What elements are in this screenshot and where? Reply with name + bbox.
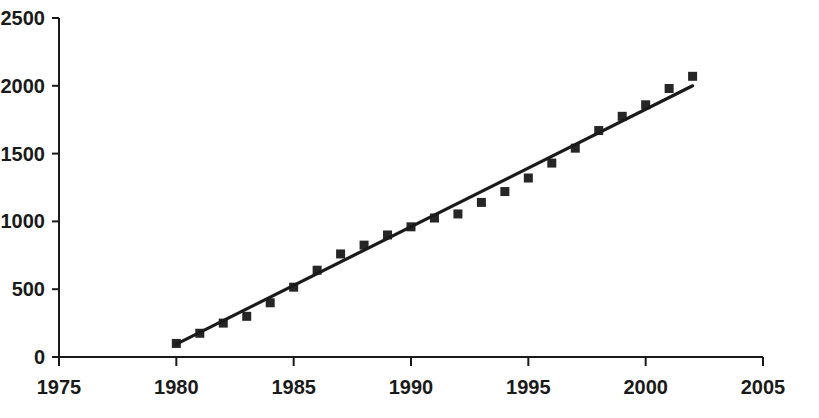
y-tick-label: 0 — [0, 347, 45, 367]
x-tick-label: 1985 — [271, 377, 316, 397]
x-tick-label: 2005 — [741, 377, 786, 397]
data-point-marker — [336, 249, 345, 258]
data-point-marker — [477, 198, 486, 207]
x-tick-label: 2000 — [623, 377, 668, 397]
x-tick-label: 1975 — [37, 377, 82, 397]
data-point-marker — [547, 159, 556, 168]
chart-container: 0500100015002000250019751980198519901995… — [0, 0, 819, 418]
y-tick-label: 2000 — [0, 76, 45, 96]
x-tick-label: 1995 — [506, 377, 551, 397]
data-point-marker — [453, 209, 462, 218]
data-point-marker — [665, 84, 674, 93]
plot-area — [0, 0, 819, 418]
y-tick-label: 1500 — [0, 144, 45, 164]
y-tick-label: 2500 — [0, 8, 45, 28]
data-point-marker — [688, 72, 697, 81]
data-point-marker — [242, 312, 251, 321]
x-tick-label: 1990 — [389, 377, 434, 397]
data-point-marker — [500, 187, 509, 196]
x-tick-label: 1980 — [154, 377, 199, 397]
y-tick-label: 500 — [0, 279, 45, 299]
data-point-marker — [524, 174, 533, 183]
y-tick-label: 1000 — [0, 211, 45, 231]
trend-line — [176, 86, 692, 344]
